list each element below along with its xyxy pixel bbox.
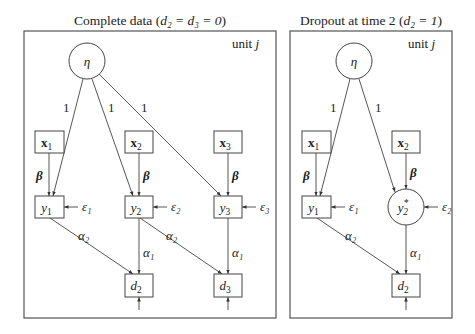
path-coefficient-label: ε₂ [171, 199, 181, 214]
path-coefficient-label: β [231, 168, 239, 183]
path-coefficient-label: α₁ [410, 245, 421, 260]
node-y1: y1 [302, 196, 331, 218]
path-coefficient-label: β [35, 168, 43, 183]
panel-complete-data: Complete data (d₂ = d₃ = 0) unit j 111ββ… [24, 13, 276, 318]
node-d2: d2 [392, 274, 420, 297]
path-arrow: 1 [359, 79, 395, 192]
node-group: ηx1x2x3y1y2y3d2d3 [35, 43, 242, 297]
unit-label: unit j [232, 36, 259, 51]
path-arrow: α₂ [317, 218, 400, 274]
path-arrow: β [228, 153, 239, 196]
panel-title: Dropout at time 2 (d₂ = 1) [300, 13, 442, 28]
path-coefficient-label: ε₃ [260, 199, 270, 214]
node-x3: x3 [214, 131, 242, 153]
path-coefficient-label: β [302, 168, 310, 183]
panel-dropout: Dropout at time 2 (d₂ = 1) unit j 11ββα₂… [290, 13, 452, 318]
node-eta: η [336, 43, 372, 79]
path-coefficient-label: ε₂ [442, 199, 452, 214]
path-arrow: 1 [99, 74, 221, 196]
node-label: η [351, 54, 357, 69]
path-arrow: β [139, 153, 150, 196]
path-coefficient-label: α₂ [345, 228, 357, 243]
panel-frame [290, 31, 452, 318]
path-coefficient-label: 1 [375, 100, 382, 115]
path-coefficient-label: α₂ [78, 228, 90, 243]
path-arrow: ε₁ [331, 199, 359, 214]
unit-label: unit j [408, 36, 435, 51]
node-y2star: y*2 [388, 189, 424, 225]
node-x1: x1 [35, 131, 64, 153]
path-coefficient-label: 1 [141, 100, 148, 115]
path-coefficient-label: β [409, 165, 417, 180]
path-arrow: ε₁ [64, 199, 92, 214]
sem-diagram: Complete data (d₂ = d₃ = 0) unit j 111ββ… [0, 0, 475, 334]
node-x1: x1 [302, 131, 331, 153]
arrow-line [50, 218, 133, 274]
arrow-line [317, 218, 400, 274]
path-coefficient-label: 1 [63, 100, 70, 115]
path-coefficient-label: α₂ [166, 228, 178, 243]
path-arrow: ε₂ [424, 199, 452, 214]
panel-title: Complete data (d₂ = d₃ = 0) [74, 13, 226, 28]
path-coefficient-label: α₁ [143, 245, 154, 260]
path-coefficient-label: ε₁ [82, 199, 92, 214]
node-x2: x2 [392, 131, 420, 153]
node-y1: y1 [35, 196, 64, 218]
path-arrow: ε₂ [153, 199, 181, 214]
path-arrow: ε₃ [242, 199, 270, 214]
path-coefficient-label: 1 [108, 100, 115, 115]
path-coefficient-label: ε₁ [349, 199, 359, 214]
node-y3: y3 [214, 196, 242, 218]
path-arrow: β [406, 153, 417, 189]
node-d3: d3 [214, 274, 242, 297]
edge-group: 11ββα₂α₁ε₁ε₂ [302, 79, 452, 310]
node-label: y*2 [396, 198, 409, 217]
path-arrow: α₁ [406, 225, 421, 274]
path-coefficient-label: α₁ [232, 245, 243, 260]
arrow-line [359, 79, 395, 192]
path-coefficient-label: β [142, 168, 150, 183]
path-arrow: α₂ [50, 218, 133, 274]
arrow-line [99, 74, 221, 196]
node-eta: η [69, 43, 105, 79]
path-arrow: β [35, 153, 49, 196]
path-coefficient-label: 1 [330, 100, 337, 115]
node-label: η [84, 54, 90, 69]
node-d2: d2 [125, 274, 153, 297]
path-arrow: β [302, 153, 316, 196]
node-y2: y2 [125, 196, 153, 218]
node-x2: x2 [125, 131, 153, 153]
path-arrow: α₁ [228, 218, 243, 274]
